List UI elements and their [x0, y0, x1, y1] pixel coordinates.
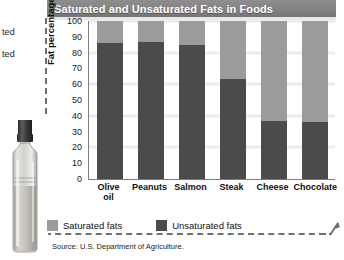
x-axis-label: Chocolate	[294, 182, 334, 192]
x-axis-category-labels: OliveoilPeanutsSalmonSteakCheeseChocolat…	[88, 182, 334, 208]
x-axis-label-line: Steak	[212, 182, 252, 192]
source-note: Source: U.S. Department of Agriculture.	[52, 242, 184, 251]
bar-column	[302, 21, 328, 179]
bar-column	[138, 21, 164, 179]
y-tick-label: 90	[72, 32, 82, 42]
x-axis-label-line: oil	[89, 192, 129, 202]
legend-swatch	[47, 220, 58, 231]
bar-column	[261, 21, 287, 179]
chart-title-bar: Saturated and Unsaturated Fats in Foods	[47, 0, 336, 17]
x-axis-label: Cheese	[253, 182, 293, 192]
legend-label: Saturated fats	[63, 220, 122, 231]
plot-canvas	[88, 21, 335, 180]
y-tick-label: 10	[72, 158, 82, 168]
chart-title: Saturated and Unsaturated Fats in Foods	[54, 3, 273, 15]
y-tick-label: 50	[72, 95, 82, 105]
bar-segment	[261, 121, 287, 179]
legend-label: Unsaturated fats	[172, 220, 242, 231]
bar-column	[179, 21, 205, 179]
bar-column	[220, 21, 246, 179]
x-axis-label-line: Chocolate	[294, 182, 334, 192]
x-axis-label: Steak	[212, 182, 252, 192]
bar-segment	[97, 21, 123, 43]
legend-item[interactable]: Unsaturated fats	[156, 220, 242, 231]
x-axis-label-line: Salmon	[171, 182, 211, 192]
y-tick-label: 0	[77, 174, 82, 184]
chart-legend: Saturated fatsUnsaturated fats	[47, 219, 327, 232]
y-tick-label: 60	[72, 79, 82, 89]
y-axis-title: Fat percentage	[45, 0, 56, 65]
bar-segment	[302, 122, 328, 179]
x-axis-label: Oliveoil	[89, 182, 129, 202]
legend-item[interactable]: Saturated fats	[47, 220, 122, 231]
bar-segment	[97, 43, 123, 179]
cropped-margin-text-2: ted	[2, 49, 15, 59]
bar-series-group	[89, 21, 335, 179]
y-tick-label: 20	[72, 142, 82, 152]
y-tick-label: 30	[72, 127, 82, 137]
y-tick-label: 70	[72, 63, 82, 73]
bar-segment	[302, 21, 328, 122]
x-axis-label: Salmon	[171, 182, 211, 192]
y-tick-label: 40	[72, 111, 82, 121]
x-axis-label-line: Cheese	[253, 182, 293, 192]
bar-segment	[179, 21, 205, 45]
chart-plot-region: Fat percentage 0102030405060708090100	[47, 21, 336, 191]
bar-segment	[220, 21, 246, 79]
cropped-margin-text-1: ted	[2, 27, 15, 37]
x-axis-label-line: Olive	[89, 182, 129, 192]
legend-swatch	[156, 220, 167, 231]
olive-oil-bottle-photo	[4, 118, 48, 256]
bar-segment	[138, 21, 164, 42]
dashed-bottom-border	[45, 233, 325, 235]
x-axis-label-line: Peanuts	[130, 182, 170, 192]
y-tick-label: 100	[67, 16, 82, 26]
y-axis-tick-labels: 0102030405060708090100	[56, 21, 82, 179]
bar-segment	[179, 45, 205, 179]
bar-column	[97, 21, 123, 179]
bar-segment	[261, 21, 287, 121]
x-axis-label: Peanuts	[130, 182, 170, 192]
y-tick-label: 80	[72, 48, 82, 58]
bar-segment	[138, 42, 164, 179]
bar-segment	[220, 79, 246, 179]
